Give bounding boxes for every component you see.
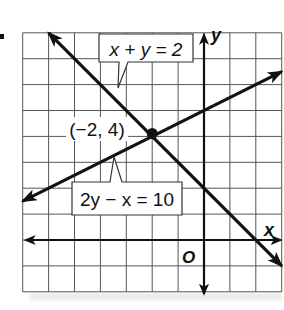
labels: x + y = 22y − x = 10(−2, 4)yxO xyxy=(66,25,275,267)
grid xyxy=(23,33,282,292)
equation-label-1: x + y = 2 xyxy=(109,39,183,60)
origin-label: O xyxy=(182,248,195,267)
intersection-point xyxy=(147,128,158,139)
y-axis-label: y xyxy=(210,25,222,45)
axes xyxy=(26,35,281,294)
coordinate-plane: x + y = 22y − x = 10(−2, 4)yxO xyxy=(0,0,284,310)
line-x-plus-y-eq-2 xyxy=(49,33,282,266)
x-axis-label: x xyxy=(263,220,275,240)
point-label: (−2, 4) xyxy=(69,119,124,140)
equation-label-2: 2y − x = 10 xyxy=(80,189,174,210)
